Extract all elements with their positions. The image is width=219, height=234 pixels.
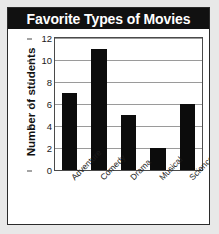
y-axis-tick-labels: 024681012 bbox=[30, 37, 52, 171]
y-axis-tick-mark bbox=[27, 126, 32, 127]
y-axis-tick-label: 10 bbox=[32, 55, 52, 66]
y-axis-tick-mark bbox=[27, 148, 32, 149]
y-axis-tick-mark bbox=[27, 82, 32, 83]
chart-title: Favorite Types of Movies bbox=[8, 8, 209, 29]
y-axis-tick-label: 6 bbox=[32, 99, 52, 110]
y-axis-tick-label: 8 bbox=[32, 77, 52, 88]
bar bbox=[150, 148, 165, 170]
y-axis-tick-mark bbox=[27, 104, 32, 105]
plot-area bbox=[54, 37, 203, 171]
y-axis-tick-label: 4 bbox=[32, 121, 52, 132]
bar bbox=[62, 93, 77, 170]
y-axis-tick-mark bbox=[27, 170, 32, 171]
y-axis-tick-mark bbox=[27, 60, 32, 61]
y-axis-tick-mark bbox=[27, 38, 32, 39]
chart-card: Favorite Types of Movies Number of stude… bbox=[7, 7, 210, 225]
bars-layer bbox=[55, 38, 202, 170]
x-axis-tick-labels: AdventureComedyDramaMusicalScience ficti… bbox=[54, 171, 203, 225]
y-axis-tick-label: 12 bbox=[32, 33, 52, 44]
y-axis-tick-label: 0 bbox=[32, 165, 52, 176]
y-axis-tick-label: 2 bbox=[32, 143, 52, 154]
